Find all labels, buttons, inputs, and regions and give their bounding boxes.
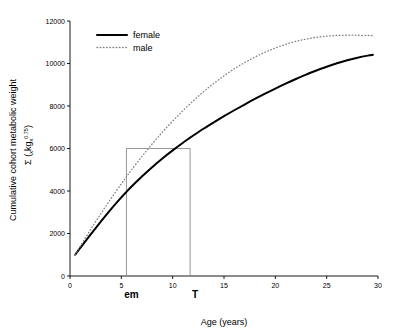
y-axis-title-group: Cumulative cohort metabolic weight (8, 78, 18, 221)
exponent-075: 0.75 (23, 128, 29, 139)
chart-figure: 020004000600080001000012000 051015202530… (0, 0, 397, 330)
y-tick-label: 8000 (49, 103, 65, 110)
x-axis-title: Age (years) (201, 317, 248, 327)
sigma-open-paren: Σ ( (23, 154, 33, 165)
y-axis-title-line1: Cumulative cohort metabolic weight (8, 78, 18, 221)
y-tick-label: 10000 (46, 60, 66, 67)
x-tick-label: 20 (271, 282, 279, 289)
x-tick-label: 25 (323, 282, 331, 289)
annotation-em: em (124, 289, 139, 300)
x-tick-label: 15 (220, 282, 228, 289)
x-tick-label: 0 (68, 282, 72, 289)
y-tick-label: 4000 (49, 188, 65, 195)
x-tick-label: 5 (119, 282, 123, 289)
annotation-T: T (192, 289, 198, 300)
metabolic-weight-line-chart: 020004000600080001000012000 051015202530… (0, 0, 397, 330)
x-tick-label: 30 (374, 282, 382, 289)
y-tick-label: 12000 (46, 18, 66, 25)
y-tick-label: 6000 (49, 145, 65, 152)
y-tick-label: 0 (61, 273, 65, 280)
y-tick-label: 2000 (49, 230, 65, 237)
plot-background (0, 0, 397, 330)
legend-label-male: male (133, 43, 153, 53)
legend-label-female: female (133, 30, 160, 40)
kg-text: kg (23, 142, 33, 152)
x-tick-label: 10 (169, 282, 177, 289)
close-paren: ) (23, 125, 33, 128)
x-axis-title-group: Age (years) (201, 317, 248, 327)
